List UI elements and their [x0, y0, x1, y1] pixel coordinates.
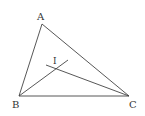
label-a: A	[36, 11, 45, 22]
segment-ab	[19, 24, 42, 96]
bisector-from-c	[46, 65, 129, 96]
triangle-diagram: A B C I	[0, 0, 145, 116]
label-c: C	[129, 99, 137, 110]
label-i: I	[53, 56, 57, 66]
label-b: B	[12, 99, 19, 110]
bisector-from-b	[19, 60, 68, 96]
